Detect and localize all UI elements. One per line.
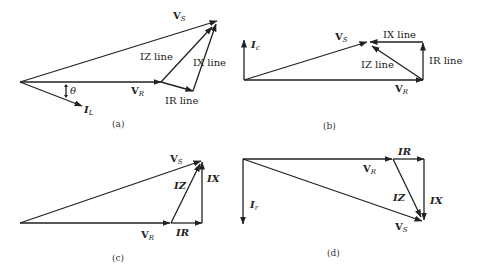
panel-a: VS VR IL θ IZ line IX line IR line (a) (20, 10, 226, 129)
phasor-diagrams: VS VR IL θ IZ line IX line IR line (a) I… (0, 0, 480, 270)
label-ix-line-b: IX line (383, 29, 416, 40)
caption-a: (a) (112, 119, 124, 129)
label-iz-line-b: IZ line (361, 59, 394, 70)
label-vr-a: VR (130, 85, 145, 98)
label-theta-a: θ (70, 85, 76, 96)
label-vr-d: VR (362, 163, 377, 176)
label-ir-d: IR (397, 146, 411, 157)
ir-line-phasor (161, 82, 193, 91)
panel-b: Ic VS VR IX line IR line IZ line (b) (244, 29, 462, 131)
vs-phasor (243, 159, 422, 221)
label-vs-c: VS (169, 153, 183, 166)
label-vs-b: VS (334, 31, 348, 44)
label-ix-d: IX (429, 195, 444, 206)
label-ix-line-a: IX line (193, 57, 226, 68)
label-ir-current-d: Ir (249, 199, 259, 212)
label-iz-line-a: IZ line (140, 51, 173, 62)
vs-phasor (244, 42, 367, 80)
label-vs-d: VS (394, 221, 408, 234)
label-vs-a: VS (172, 10, 186, 23)
panel-d: Ir VR VS IR IZ IX (d) (243, 146, 444, 258)
label-ir-line-a: IR line (165, 95, 198, 106)
label-ic-b: Ic (250, 39, 260, 52)
label-iz-c: IZ (173, 180, 187, 191)
label-il-a: IL (83, 104, 94, 117)
label-vr-c: VR (140, 229, 155, 242)
iz-phasor (171, 164, 200, 223)
caption-b: (b) (323, 121, 336, 131)
iz-phasor (393, 159, 421, 217)
label-ix-c: IX (206, 173, 221, 184)
vs-phasor (20, 21, 217, 82)
label-vr-b: VR (394, 83, 409, 96)
label-iz-d: IZ (392, 192, 406, 203)
caption-c: (c) (112, 253, 124, 263)
panel-c: VS VR IZ IX IR (c) (20, 153, 221, 263)
caption-d: (d) (327, 248, 340, 258)
label-ir-c: IR (175, 227, 189, 238)
vs-phasor (20, 161, 201, 223)
label-ir-line-b: IR line (429, 55, 462, 66)
